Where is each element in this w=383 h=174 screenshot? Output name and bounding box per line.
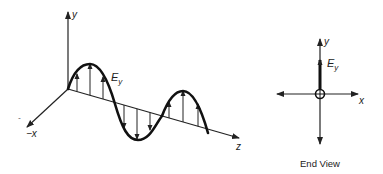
perspective-view: y - −x z Ey (18, 9, 241, 152)
field-vectors (77, 64, 198, 139)
neg-x-axis-label: −x (26, 128, 38, 139)
end-view-x-label: x (358, 95, 365, 106)
wave-diagram: y - −x z Ey y x Ey End View (0, 0, 383, 174)
z-axis-label: z (235, 141, 241, 152)
end-view-y-label: y (323, 36, 330, 47)
end-view-ey-label: Ey (327, 57, 339, 72)
y-axis-label: y (71, 9, 78, 20)
end-view-caption: End View (300, 158, 340, 169)
ey-label: Ey (111, 71, 123, 86)
ey-wave-curve (68, 64, 208, 140)
neg-sign-mark: - (18, 113, 21, 122)
neg-x-axis (27, 89, 68, 127)
end-view: y x Ey End View (277, 36, 365, 169)
